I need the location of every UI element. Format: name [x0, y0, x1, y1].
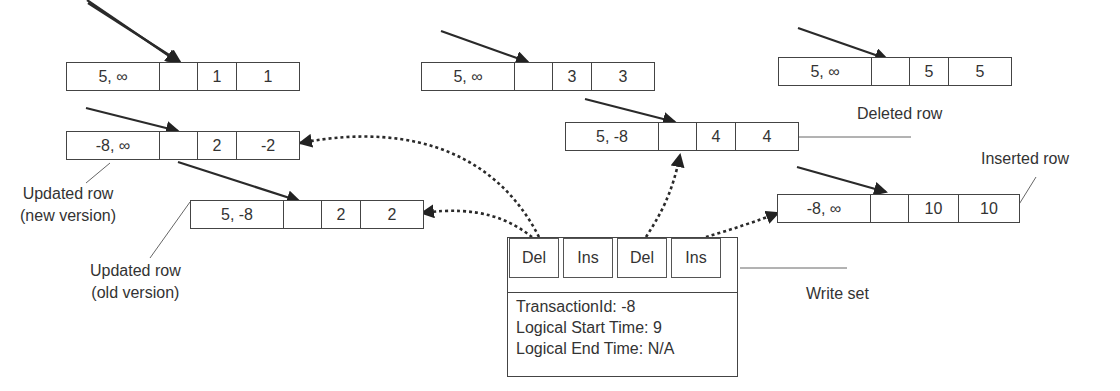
label-line: Updated row	[90, 260, 181, 282]
row-key: 4	[697, 123, 736, 150]
row-value: 10	[959, 195, 1019, 222]
write-set-op-del-2: Del	[617, 238, 667, 278]
row-value: 5	[949, 58, 1011, 85]
row-value: 2	[361, 201, 423, 228]
row-key: 3	[553, 63, 592, 90]
label-line: (old version)	[90, 282, 181, 304]
row-version-3-3: 5, ∞ 3 3	[421, 62, 655, 91]
write-set-op-del-1: Del	[509, 238, 559, 278]
write-set-operations: Del Ins Del Ins	[508, 238, 737, 280]
row-value: -2	[237, 132, 299, 159]
label-updated-row-old: Updated row (old version)	[90, 260, 181, 304]
row-version-updated-old: 5, -8 2 2	[190, 200, 424, 229]
pointer-arrow-row1	[87, 0, 178, 62]
row-value: 3	[592, 63, 654, 90]
index-pointer-arrows	[86, 0, 887, 201]
label-write-set: Write set	[806, 283, 869, 305]
row-timestamps: 5, ∞	[422, 63, 515, 90]
row-timestamps: 5, ∞	[779, 58, 872, 85]
row-version-1-1: 5, ∞ 1 1	[66, 62, 300, 91]
row-version-inserted: -8, ∞ 10 10	[777, 194, 1020, 223]
row-index-pointer	[872, 58, 910, 85]
write-set-divider	[508, 292, 737, 293]
transaction-info: TransactionId: -8 Logical Start Time: 9 …	[516, 296, 674, 359]
row-version-5-5: 5, ∞ 5 5	[778, 57, 1012, 86]
row-version-deleted: 5, -8 4 4	[565, 122, 799, 151]
label-inserted-row: Inserted row	[981, 148, 1069, 170]
label-deleted-row: Deleted row	[857, 103, 942, 125]
label-line: Updated row	[20, 183, 116, 205]
row-key: 5	[910, 58, 949, 85]
row-version-updated-new: -8, ∞ 2 -2	[66, 131, 300, 160]
row-index-pointer	[515, 63, 553, 90]
transaction-id: TransactionId: -8	[516, 296, 674, 317]
label-line: (new version)	[20, 205, 116, 227]
row-key: 10	[909, 195, 959, 222]
row-timestamps: -8, ∞	[67, 132, 160, 159]
row-key: 2	[322, 201, 361, 228]
logical-end-time: Logical End Time: N/A	[516, 338, 674, 359]
row-key: 1	[198, 63, 237, 90]
row-value: 4	[736, 123, 798, 150]
write-set-op-ins-1: Ins	[563, 238, 613, 278]
row-index-pointer	[284, 201, 322, 228]
write-set-op-ins-2: Ins	[671, 238, 721, 278]
row-index-pointer	[659, 123, 697, 150]
label-updated-row-new: Updated row (new version)	[20, 183, 116, 227]
logical-start-time: Logical Start Time: 9	[516, 317, 674, 338]
row-timestamps: -8, ∞	[778, 195, 871, 222]
row-value: 1	[237, 63, 299, 90]
row-timestamps: 5, ∞	[67, 63, 160, 90]
row-index-pointer	[160, 63, 198, 90]
row-index-pointer	[871, 195, 909, 222]
row-index-pointer	[160, 132, 198, 159]
row-key: 2	[198, 132, 237, 159]
write-set-box: Del Ins Del Ins TransactionId: -8 Logica…	[507, 237, 738, 377]
row-timestamps: 5, -8	[566, 123, 659, 150]
row-timestamps: 5, -8	[191, 201, 284, 228]
